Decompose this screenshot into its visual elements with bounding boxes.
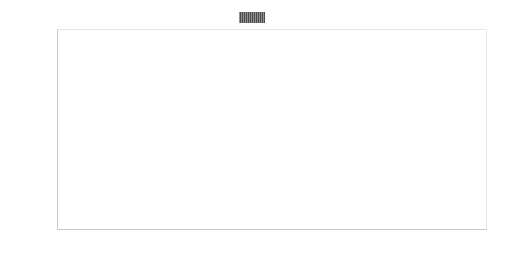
plot-area xyxy=(57,29,487,230)
y-axis-category-labels xyxy=(0,29,53,228)
x-axis-tick-labels xyxy=(0,233,511,247)
mutation-frequency-bar-chart xyxy=(0,0,511,262)
chart-legend xyxy=(0,8,511,26)
bar-series xyxy=(58,30,486,229)
legend-swatch-icon xyxy=(239,12,265,23)
